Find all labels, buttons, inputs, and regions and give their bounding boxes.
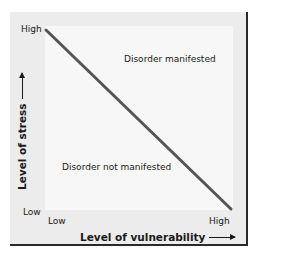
region-label-disorder-not-manifested: Disorder not manifested — [62, 162, 171, 172]
x-axis-title: Level of vulnerability — [80, 231, 205, 243]
y-axis-title-group: Level of stress — [16, 73, 28, 190]
arrow-up-icon — [22, 73, 23, 99]
x-axis-low-label: Low — [48, 216, 66, 226]
y-axis-high-label: High — [21, 24, 42, 34]
x-axis-title-group: Level of vulnerability — [80, 231, 235, 243]
arrow-right-icon — [209, 237, 235, 238]
region-label-disorder-manifested: Disorder manifested — [124, 54, 216, 64]
threshold-line — [0, 0, 281, 269]
y-axis-title: Level of stress — [16, 103, 28, 190]
y-axis-low-label: Low — [23, 207, 41, 217]
x-axis-high-label: High — [209, 216, 230, 226]
